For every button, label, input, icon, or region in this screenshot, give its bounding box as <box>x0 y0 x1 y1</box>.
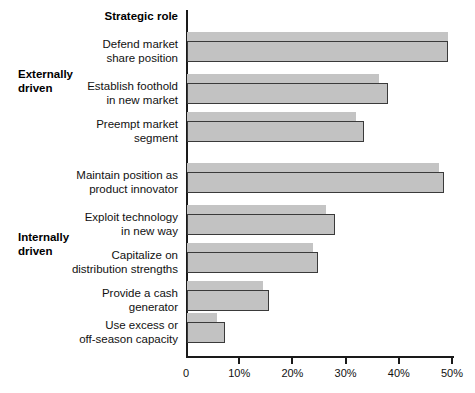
category-label-line: distribution strengths <box>8 263 178 277</box>
category-label-line: Defend market <box>8 38 178 52</box>
category-label-line: in new market <box>8 94 178 108</box>
x-axis-tick-label: 40% <box>388 367 410 379</box>
category-label: Defend market share position <box>8 38 178 65</box>
category-label-line: Preempt market <box>8 118 178 132</box>
bar-lower <box>187 214 335 235</box>
bar-upper <box>187 281 263 290</box>
category-label: Preempt market segment <box>8 118 178 145</box>
bar-upper <box>187 32 448 41</box>
category-label-line: Use excess or <box>8 319 178 333</box>
category-label-line: Establish foothold <box>8 80 178 94</box>
bar-lower <box>187 41 448 62</box>
x-axis-tick <box>398 358 400 364</box>
x-axis-tick-label: 50% <box>441 367 463 379</box>
category-label-line: Maintain position as <box>8 169 178 183</box>
bar-lower <box>187 83 388 104</box>
x-axis-tick-label: 30% <box>335 367 357 379</box>
plot-area: 010%20%30%40%50% <box>186 10 471 358</box>
category-label-line: in new way <box>8 225 178 239</box>
category-label-line: segment <box>8 132 178 146</box>
bar-lower <box>187 290 269 311</box>
x-axis-tick <box>291 358 293 364</box>
bar-upper <box>187 112 356 121</box>
x-axis-tick <box>238 358 240 364</box>
x-axis-tick-label: 10% <box>228 367 250 379</box>
bar-upper <box>187 74 379 83</box>
bar-upper <box>187 163 439 172</box>
bar-lower <box>187 322 225 343</box>
category-label: Establish foothold in new market <box>8 80 178 107</box>
category-label-line: Capitalize on <box>8 249 178 263</box>
x-axis-tick-label: 20% <box>281 367 303 379</box>
bar-chart: Strategic role Externally driven Interna… <box>0 0 475 393</box>
bar-upper <box>187 243 313 252</box>
category-label-line: Provide a cash <box>8 287 178 301</box>
category-label-line: off-season capacity <box>8 333 178 347</box>
bar-lower <box>187 121 364 142</box>
category-label: Maintain position as product innovator <box>8 169 178 196</box>
bar-upper <box>187 205 326 214</box>
bar-lower <box>187 172 444 193</box>
category-label: Exploit technology in new way <box>8 211 178 238</box>
bar-lower <box>187 252 318 273</box>
category-label-line: Exploit technology <box>8 211 178 225</box>
page-title: Strategic role <box>8 10 178 23</box>
category-label-line: generator <box>8 301 178 315</box>
category-label: Capitalize on distribution strengths <box>8 249 178 276</box>
x-axis-tick <box>451 358 453 364</box>
x-axis-tick <box>345 358 347 364</box>
category-label-line: share position <box>8 52 178 66</box>
x-axis-tick-label: 0 <box>183 367 189 379</box>
category-label: Provide a cash generator <box>8 287 178 314</box>
bar-upper <box>187 313 217 322</box>
x-axis-line <box>186 356 454 358</box>
category-label: Use excess or off-season capacity <box>8 319 178 346</box>
category-label-line: product innovator <box>8 183 178 197</box>
